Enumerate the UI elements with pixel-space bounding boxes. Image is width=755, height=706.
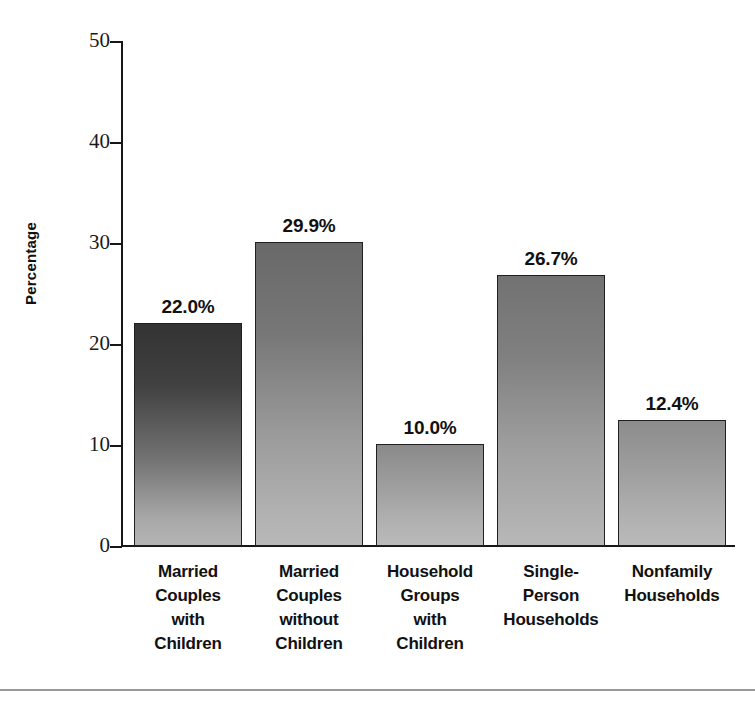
y-axis-line <box>121 41 123 547</box>
category-label-line: with <box>370 608 490 632</box>
category-label-line: Couples <box>249 584 369 608</box>
category-label-line: Married <box>249 560 369 584</box>
value-label-single-person-households: 26.7% <box>497 249 605 268</box>
category-label-line: Nonfamily <box>612 560 732 584</box>
y-tick-mark <box>110 344 122 346</box>
y-tick-label: 40 <box>64 131 110 152</box>
category-label-line: without <box>249 608 369 632</box>
bar-married-couples-with-children <box>134 323 242 546</box>
value-label-nonfamily-households: 12.4% <box>618 394 726 413</box>
bar-married-couples-without-children <box>255 242 363 546</box>
y-tick-mark <box>110 142 122 144</box>
category-label-line: Children <box>128 632 248 656</box>
y-tick-mark <box>110 243 122 245</box>
y-tick-label: 30 <box>64 232 110 253</box>
y-tick-mark <box>110 445 122 447</box>
category-label-household-groups-with-children: Household Groups with Children <box>370 560 490 657</box>
category-label-nonfamily-households: Nonfamily Households <box>612 560 732 608</box>
bar-chart-figure: 50 40 30 20 10 0 Percentage 22.0% 29.9% … <box>0 0 755 706</box>
value-label-household-groups-with-children: 10.0% <box>376 418 484 437</box>
y-axis-title: Percentage <box>22 194 39 334</box>
value-label-married-couples-with-children: 22.0% <box>134 297 242 316</box>
category-label-line: Person <box>491 584 611 608</box>
category-label-line: Groups <box>370 584 490 608</box>
category-label-line: Children <box>249 632 369 656</box>
category-label-line: Children <box>370 632 490 656</box>
bar-single-person-households <box>497 275 605 546</box>
value-label-married-couples-without-children: 29.9% <box>255 216 363 235</box>
category-label-line: Single- <box>491 560 611 584</box>
y-tick-label: 0 <box>64 535 110 556</box>
figure-bottom-rule <box>0 689 755 691</box>
category-label-line: with <box>128 608 248 632</box>
category-label-married-couples-with-children: Married Couples with Children <box>128 560 248 657</box>
y-tick-label: 20 <box>64 333 110 354</box>
category-label-line: Households <box>612 584 732 608</box>
category-label-line: Married <box>128 560 248 584</box>
y-tick-label: 50 <box>64 30 110 51</box>
y-tick-label: 10 <box>64 434 110 455</box>
category-label-married-couples-without-children: Married Couples without Children <box>249 560 369 657</box>
bar-household-groups-with-children <box>376 444 484 546</box>
y-tick-mark <box>110 41 122 43</box>
category-label-line: Households <box>491 608 611 632</box>
category-label-line: Couples <box>128 584 248 608</box>
category-label-single-person-households: Single- Person Households <box>491 560 611 632</box>
bar-nonfamily-households <box>618 420 726 546</box>
category-label-line: Household <box>370 560 490 584</box>
